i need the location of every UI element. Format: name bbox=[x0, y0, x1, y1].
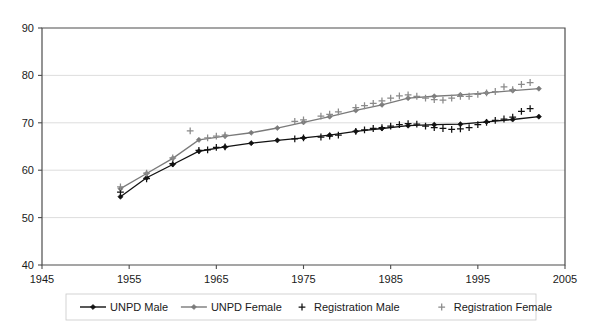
data-point bbox=[501, 83, 508, 90]
y-tick-label-70: 70 bbox=[22, 117, 34, 129]
x-tick-label-2005: 2005 bbox=[553, 273, 577, 285]
series-line bbox=[120, 117, 538, 197]
data-point bbox=[204, 135, 211, 142]
y-tick-label-90: 90 bbox=[22, 22, 34, 34]
data-point bbox=[213, 133, 220, 140]
y-tick-label-40: 40 bbox=[22, 259, 34, 271]
data-point bbox=[300, 135, 307, 142]
data-point bbox=[249, 141, 254, 146]
x-axis-ticks-group: 1945195519651975198519952005 bbox=[30, 265, 577, 285]
data-point bbox=[501, 116, 508, 123]
data-point bbox=[474, 91, 481, 98]
data-point bbox=[379, 98, 386, 105]
data-point bbox=[492, 88, 499, 95]
data-point bbox=[275, 138, 280, 143]
data-point bbox=[396, 92, 403, 99]
data-point bbox=[318, 134, 325, 141]
data-point bbox=[335, 132, 342, 139]
y-axis-ticks-group: 405060708090 bbox=[22, 22, 42, 271]
data-point bbox=[361, 127, 368, 134]
series-layer bbox=[117, 79, 541, 199]
legend-item-registration-female[interactable]: Registration Female bbox=[438, 301, 552, 313]
data-point bbox=[370, 125, 377, 132]
data-point bbox=[431, 96, 438, 103]
data-point bbox=[527, 105, 534, 112]
legend-group: UNPD MaleUNPD FemaleRegistration MaleReg… bbox=[80, 301, 552, 313]
data-point bbox=[440, 125, 447, 132]
legend-label: UNPD Male bbox=[110, 301, 168, 313]
x-tick-label-1985: 1985 bbox=[378, 273, 402, 285]
data-point bbox=[249, 130, 254, 135]
data-point bbox=[518, 81, 525, 88]
data-point bbox=[457, 93, 464, 100]
data-point bbox=[291, 136, 298, 143]
data-point bbox=[379, 124, 386, 131]
data-point bbox=[448, 126, 455, 133]
data-point bbox=[187, 127, 194, 134]
data-point bbox=[527, 79, 534, 86]
y-tick-label-60: 60 bbox=[22, 164, 34, 176]
x-tick-label-1995: 1995 bbox=[466, 273, 490, 285]
data-point bbox=[422, 95, 429, 102]
data-point bbox=[518, 108, 525, 115]
life-expectancy-chart: 405060708090 194519551965197519851995200… bbox=[0, 0, 603, 334]
data-point bbox=[204, 146, 211, 153]
y-tick-label-80: 80 bbox=[22, 69, 34, 81]
data-point bbox=[352, 128, 359, 135]
data-point bbox=[413, 93, 420, 100]
data-point bbox=[222, 132, 229, 139]
data-point bbox=[222, 144, 229, 151]
data-point bbox=[275, 125, 280, 130]
data-point bbox=[483, 119, 490, 126]
data-point bbox=[213, 144, 220, 151]
data-point bbox=[326, 133, 333, 140]
legend-label: Registration Female bbox=[454, 301, 552, 313]
x-tick-label-1975: 1975 bbox=[291, 273, 315, 285]
data-point bbox=[457, 126, 464, 133]
data-point bbox=[405, 91, 412, 98]
plot-frame bbox=[42, 28, 565, 265]
data-point bbox=[466, 124, 473, 131]
data-point bbox=[536, 114, 541, 119]
x-tick-label-1965: 1965 bbox=[204, 273, 228, 285]
legend-item-registration-male[interactable]: Registration Male bbox=[299, 301, 400, 313]
data-point bbox=[387, 123, 394, 130]
data-point bbox=[483, 90, 490, 97]
series-registration-female bbox=[117, 79, 533, 190]
series-registration-male bbox=[117, 105, 533, 195]
data-point bbox=[536, 86, 541, 91]
data-point bbox=[413, 121, 420, 128]
x-tick-label-1955: 1955 bbox=[117, 273, 141, 285]
y-tick-label-50: 50 bbox=[22, 212, 34, 224]
legend-label: UNPD Female bbox=[211, 301, 282, 313]
legend-label: Registration Male bbox=[314, 301, 400, 313]
chart-canvas: 405060708090 194519551965197519851995200… bbox=[0, 0, 603, 334]
x-tick-label-1945: 1945 bbox=[30, 273, 54, 285]
data-point bbox=[387, 95, 394, 102]
data-point bbox=[440, 97, 447, 104]
data-point bbox=[422, 123, 429, 130]
data-point bbox=[509, 86, 516, 93]
